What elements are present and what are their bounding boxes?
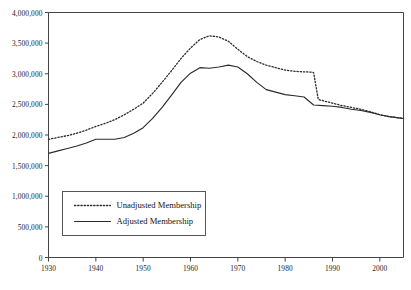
x-tick-label-1970: 1970	[230, 264, 245, 273]
y-tick-label-3000000: 3,000,000	[0, 69, 43, 78]
x-tick-label-1980: 1980	[278, 264, 293, 273]
x-tick-label-1990: 1990	[325, 264, 340, 273]
y-tick-label-500000: 500,000	[0, 222, 43, 231]
chart-plot-area	[0, 0, 411, 290]
series-line-unadjusted-membership	[49, 36, 404, 140]
x-tick-label-1930: 1930	[41, 264, 56, 273]
chart-series-group	[49, 36, 404, 154]
y-tick-label-2500000: 2,500,000	[0, 100, 43, 109]
y-tick-label-1500000: 1,500,000	[0, 161, 43, 170]
x-tick-label-1960: 1960	[183, 264, 198, 273]
legend-box	[63, 192, 206, 236]
x-tick-label-2000: 2000	[372, 264, 387, 273]
y-tick-label-4000000: 4,000,000	[0, 8, 43, 17]
series-line-adjusted-membership	[49, 65, 404, 153]
x-tick-label-1940: 1940	[88, 264, 103, 273]
y-tick-label-2000000: 2,000,000	[0, 131, 43, 140]
y-tick-label-0: 0	[0, 253, 43, 262]
y-tick-label-1000000: 1,000,000	[0, 192, 43, 201]
x-tick-label-1950: 1950	[136, 264, 151, 273]
membership-line-chart: 0500,0001,000,0001,500,0002,000,0002,500…	[0, 0, 411, 290]
y-tick-label-3500000: 3,500,000	[0, 39, 43, 48]
legend-frame	[63, 192, 206, 236]
legend-label-adjusted-membership: Adjusted Membership	[117, 216, 194, 226]
legend-label-unadjusted-membership: Unadjusted Membership	[117, 200, 202, 210]
